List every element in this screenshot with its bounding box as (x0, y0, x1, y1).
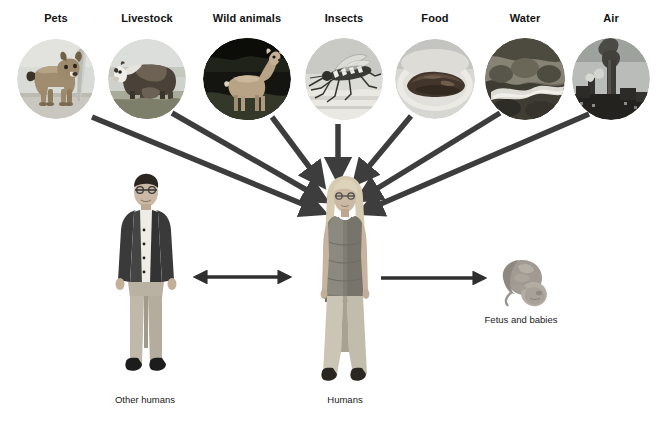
arrow-wild-animals-to-humans (272, 117, 322, 184)
diagram-canvas: Pets Livestock Wild animals Insects Food… (0, 0, 667, 427)
arrow-food-to-humans (356, 116, 411, 182)
arrow-livestock-to-humans (172, 113, 324, 200)
caption-fetus-and-babies: Fetus and babies (461, 314, 581, 325)
image-fetus-and-babies (490, 252, 552, 314)
image-water (485, 38, 565, 120)
image-other-humans (108, 172, 184, 390)
label-air: Air (555, 12, 667, 24)
image-wild-animals (203, 38, 291, 120)
image-livestock (108, 39, 186, 119)
image-humans (305, 176, 385, 396)
image-insects (305, 38, 383, 120)
caption-humans: Humans (285, 394, 405, 405)
caption-other-humans: Other humans (85, 394, 205, 405)
image-air (572, 38, 650, 120)
image-food (395, 39, 475, 119)
arrow-air-to-humans (362, 114, 589, 212)
image-pets (17, 39, 95, 119)
